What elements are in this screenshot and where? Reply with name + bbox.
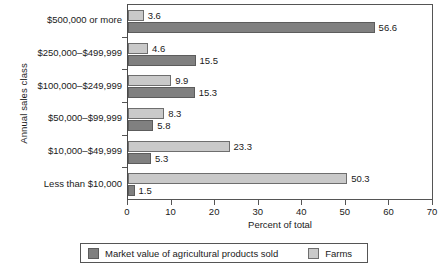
x-axis-tick: [301, 200, 302, 205]
plot-area: 3.656.64.615.59.915.38.35.823.35.350.31.…: [127, 4, 433, 200]
bar-market-value: [128, 87, 195, 98]
legend-label-market-value: Market value of agricultural products so…: [105, 248, 278, 259]
category-label: Less than $10,000: [10, 178, 122, 189]
bar-value-farms: 23.3: [234, 141, 253, 152]
y-axis-tick: [122, 135, 127, 136]
bar-market-value: [128, 185, 135, 196]
bar-value-market-value: 5.3: [155, 153, 168, 164]
bar-market-value: [128, 55, 196, 66]
y-axis-tick: [122, 167, 127, 168]
bar-market-value: [128, 120, 153, 131]
x-axis-tick: [171, 200, 172, 205]
bar-farms: [128, 141, 230, 152]
x-axis-tick: [258, 200, 259, 205]
x-axis-tick-label: 20: [199, 206, 229, 217]
x-axis-tick-label: 70: [417, 206, 444, 217]
x-axis-tick: [388, 200, 389, 205]
x-axis-tick-label: 50: [330, 206, 360, 217]
category-label: $50,000–$99,999: [10, 112, 122, 123]
bar-value-market-value: 56.6: [379, 22, 398, 33]
bar-market-value: [128, 153, 151, 164]
x-axis-title: Percent of total: [127, 219, 433, 230]
y-axis-tick: [122, 102, 127, 103]
bar-value-market-value: 15.5: [200, 55, 219, 66]
bar-value-market-value: 15.3: [199, 87, 218, 98]
x-axis-tick-label: 60: [373, 206, 403, 217]
bar-value-farms: 8.3: [168, 108, 181, 119]
bar-value-farms: 4.6: [152, 43, 165, 54]
x-axis-tick-label: 10: [156, 206, 186, 217]
category-label: $100,000–$249,999: [10, 80, 122, 91]
bar-market-value: [128, 22, 375, 33]
bar-farms: [128, 43, 148, 54]
category-label: $250,000–$499,999: [10, 47, 122, 58]
x-axis-tick: [432, 200, 433, 205]
y-axis-tick: [122, 69, 127, 70]
chart-legend: Market value of agricultural products so…: [80, 243, 368, 263]
bar-value-farms: 3.6: [148, 10, 161, 21]
category-label: $500,000 or more: [10, 14, 122, 25]
legend-swatch-farms: [308, 248, 319, 259]
x-axis-tick: [214, 200, 215, 205]
y-axis-tick: [122, 37, 127, 38]
legend-entry-farms: Farms: [308, 248, 352, 259]
bar-value-market-value: 1.5: [139, 185, 152, 196]
bar-value-farms: 9.9: [175, 75, 188, 86]
bar-value-market-value: 5.8: [157, 120, 170, 131]
bar-farms: [128, 10, 144, 21]
x-axis-tick-label: 0: [112, 206, 142, 217]
x-axis-tick-label: 30: [243, 206, 273, 217]
bar-farms: [128, 108, 164, 119]
x-axis-tick: [345, 200, 346, 205]
legend-entry-market-value: Market value of agricultural products so…: [88, 248, 278, 259]
bar-value-farms: 50.3: [351, 173, 370, 184]
bar-farms: [128, 173, 347, 184]
x-axis-tick: [127, 200, 128, 205]
legend-label-farms: Farms: [325, 248, 352, 259]
legend-swatch-market-value: [88, 248, 99, 259]
bar-farms: [128, 75, 171, 86]
bar-chart: Annual sales class $500,000 or more$250,…: [0, 0, 444, 267]
category-label-list: $500,000 or more$250,000–$499,999$100,00…: [10, 4, 122, 200]
x-axis-tick-label: 40: [286, 206, 316, 217]
category-label: $10,000–$49,999: [10, 145, 122, 156]
